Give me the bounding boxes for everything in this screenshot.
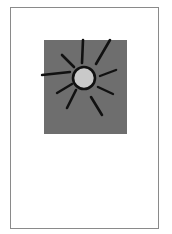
- sun-illustration: [0, 0, 172, 234]
- sun-disc: [73, 67, 95, 89]
